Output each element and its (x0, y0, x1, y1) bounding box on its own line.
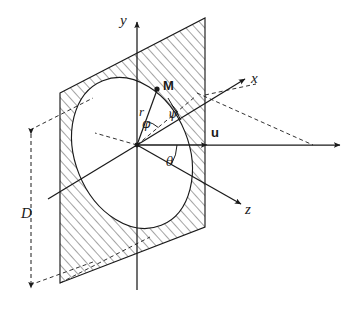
angle-psi-label: ψ (168, 107, 178, 121)
point-M-marker (154, 86, 159, 91)
plane-hatching (40, 0, 230, 309)
aperture-plane (40, 0, 230, 309)
diagram-canvas: y x z u r M φ ψ θ D (0, 0, 358, 309)
x-axis-label: x (250, 70, 258, 86)
geometry-diagram: y x z u r M φ ψ θ D (0, 0, 358, 309)
u-vector-label: u (211, 125, 219, 140)
angle-theta-label: θ (166, 155, 174, 169)
z-axis-label: z (244, 201, 251, 217)
origin-marker (135, 143, 140, 148)
angle-phi-label: φ (142, 117, 151, 131)
point-M-label: M (163, 78, 174, 93)
dimension-D-label: D (20, 205, 32, 221)
y-axis-label: y (118, 12, 127, 28)
